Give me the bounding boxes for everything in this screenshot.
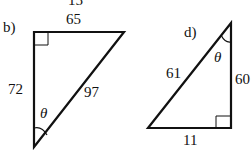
label-d: d) [184,25,197,40]
right-angle-marker-b [34,32,48,45]
side-top-b: 65 [66,12,81,27]
right-angle-marker-d [216,116,231,128]
side-left-b: 72 [8,82,23,97]
triangles-diagram [0,0,251,152]
clipped-label-15: 15 [68,0,83,8]
side-hypotenuse-d: 61 [166,66,181,81]
triangle-b [34,32,124,147]
side-hypotenuse-b: 97 [84,85,99,100]
side-right-d: 60 [235,72,250,87]
theta-label-b: θ [40,106,47,121]
side-bottom-d: 11 [183,133,197,148]
theta-label-d: θ [214,50,221,65]
label-b: b) [3,20,16,35]
theta-arc-d [221,35,231,42]
